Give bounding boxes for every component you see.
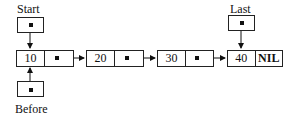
- node-nil: NIL: [256, 51, 283, 66]
- pointer-dot: [240, 21, 244, 25]
- pointer-dot: [195, 56, 199, 60]
- before-label: Before: [15, 103, 48, 115]
- node-value: 20: [87, 51, 115, 66]
- node-next-pointer: [115, 51, 143, 66]
- start-label: Start: [17, 3, 40, 15]
- node-value: 10: [17, 51, 45, 66]
- node-value: 30: [158, 51, 186, 66]
- last-label: Last: [230, 3, 251, 15]
- node-next-pointer: [45, 51, 73, 66]
- pointer-dot: [29, 88, 33, 92]
- start-pointer-box: [17, 17, 44, 33]
- last-pointer-box: [228, 15, 255, 31]
- node-value: 40: [228, 51, 256, 66]
- node-next-pointer: [186, 51, 213, 66]
- pointer-dot: [55, 56, 59, 60]
- list-node-1: 10: [16, 50, 74, 67]
- list-node-3: 30: [157, 50, 214, 67]
- list-node-2: 20: [86, 50, 144, 67]
- before-pointer-box: [17, 81, 44, 97]
- pointer-dot: [29, 23, 33, 27]
- list-node-4: 40 NIL: [227, 50, 283, 67]
- pointer-dot: [125, 56, 129, 60]
